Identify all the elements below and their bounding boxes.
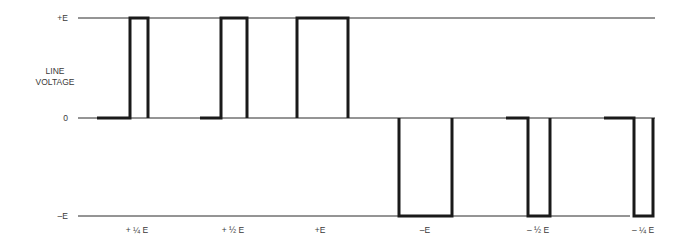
pulse-label-pos-full: +E: [315, 226, 326, 235]
pulse-3: [399, 118, 452, 216]
reference-levels: [78, 18, 655, 216]
pulse-0: [97, 18, 148, 118]
pulse-5: [604, 118, 653, 216]
pulse-label-neg-full: –E: [420, 226, 430, 235]
y-axis-title: LINE VOLTAGE: [25, 66, 85, 88]
waveform-diagram: [0, 0, 686, 251]
pulse-2: [297, 18, 348, 118]
y-axis-title-line2: VOLTAGE: [25, 77, 85, 88]
y-axis-title-line1: LINE: [25, 66, 85, 77]
pulse-4: [506, 118, 550, 216]
level-label-zero: 0: [28, 114, 68, 123]
pulse-label-neg-quarter: – ¼ E: [632, 226, 654, 235]
pulse-label-pos-quarter: + ¼ E: [126, 226, 148, 235]
level-label-neg: –E: [28, 212, 68, 221]
pulse-label-pos-half: + ½ E: [222, 226, 244, 235]
level-label-pos: +E: [28, 14, 68, 23]
pulse-1: [200, 18, 247, 118]
voltage-pulses: [97, 18, 653, 216]
pulse-label-neg-half: – ½ E: [527, 226, 549, 235]
